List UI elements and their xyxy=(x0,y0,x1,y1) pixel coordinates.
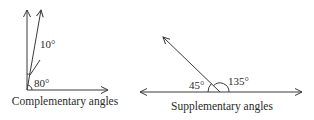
angle-label-135: 135° xyxy=(228,75,249,87)
angle-arc-45 xyxy=(208,84,211,92)
supplementary-angles-figure: 45° 135° Supplementary angles xyxy=(140,37,302,113)
complementary-angles-figure: 10° 80° Complementary angles xyxy=(12,10,119,108)
caption-complementary: Complementary angles xyxy=(12,95,119,108)
angle-diagrams: 10° 80° Complementary angles 45° 135° Su… xyxy=(0,0,314,120)
angle-label-80: 80° xyxy=(34,77,49,89)
caption-supplementary: Supplementary angles xyxy=(171,100,273,113)
angle-label-10: 10° xyxy=(40,38,55,50)
angle-label-45: 45° xyxy=(189,79,204,91)
